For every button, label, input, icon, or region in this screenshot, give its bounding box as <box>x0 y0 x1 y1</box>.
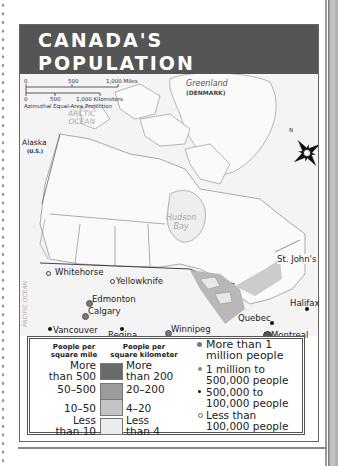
binder-dots <box>0 0 8 466</box>
size3-line2: 100,000 people <box>206 421 288 432</box>
map-title: CANADA'S POPULATION <box>38 31 195 73</box>
legend-city-size-1: 1 million to 500,000 people <box>206 364 288 385</box>
row0-mile-1: More <box>40 360 96 371</box>
scale-bar <box>26 84 118 96</box>
legend-swatch-2 <box>100 399 123 416</box>
size0-line2: million people <box>206 350 283 361</box>
city-vancouver: Vancouver <box>53 325 98 335</box>
hudson-line-1: Hudson <box>166 213 196 222</box>
row0-km-2: than 200 <box>126 371 173 382</box>
legend-row-1-km: 20–200 <box>126 384 165 395</box>
arctic-line-2: OCEAN <box>68 118 96 126</box>
arctic-ocean-label: ARCTIC OCEAN <box>68 110 96 126</box>
page-stack-edge <box>328 0 338 466</box>
row3-mile-1: Less <box>40 415 96 426</box>
page-bottom-rule <box>18 447 327 449</box>
scale-mile-0: 0 <box>24 78 28 84</box>
city-yellowknife: Yellowknife <box>116 276 163 286</box>
legend-row-2-km: 4–20 <box>126 403 151 414</box>
map-area: 0 500 1,000 Miles 0 500 1,000 Kilometers… <box>20 74 318 336</box>
city-winnipeg: Winnipeg <box>171 324 211 334</box>
title-line-2: POPULATION <box>38 54 195 73</box>
city-quebec: Quebec <box>238 313 271 323</box>
legend-city-medium-icon <box>198 390 201 393</box>
size1-line2: 500,000 people <box>206 375 288 386</box>
map-outline <box>20 74 318 336</box>
alaska-label: Alaska <box>22 138 47 147</box>
hudson-line-2: Bay <box>166 222 196 231</box>
city-edmonton: Edmonton <box>92 294 136 304</box>
legend-row-0-mile: More than 500 <box>40 360 96 381</box>
alaska-owner-label: (U.S.) <box>27 148 43 154</box>
row0-km-1: More <box>126 360 173 371</box>
legend-city-large-icon <box>198 367 202 371</box>
legend-city-small-icon <box>198 413 203 418</box>
size2-line1: 500,000 to <box>206 387 288 398</box>
legend-swatch-3 <box>100 418 123 435</box>
greenland-label: Greenland <box>186 79 228 88</box>
km-header-1: People per <box>108 343 180 351</box>
legend-city-xlarge-icon <box>197 342 202 347</box>
size3-line1: Less than <box>206 410 288 421</box>
scale-km-0: 0 <box>24 96 28 102</box>
legend-mile-header: People per square mile <box>44 343 104 359</box>
city-st-johns: St. John's <box>277 254 316 264</box>
scale-mile-500: 500 <box>68 78 79 84</box>
legend-row-0-km: More than 200 <box>126 360 173 381</box>
title-line-1: CANADA'S <box>38 31 195 50</box>
row3-km-1: Less <box>126 415 160 426</box>
page-edge <box>325 0 327 466</box>
row3-km-2: than 4 <box>126 426 160 437</box>
mile-header-1: People per <box>44 343 104 351</box>
hudson-bay-label: Hudson Bay <box>166 213 196 231</box>
city-halifax: Halifax <box>290 298 320 308</box>
map-frame: CANADA'S POPULATION <box>19 24 319 442</box>
legend-row-2-mile: 10–50 <box>40 403 96 414</box>
city-whitehorse: Whitehorse <box>55 267 103 277</box>
city-calgary: Calgary <box>88 306 121 316</box>
map-legend: People per square mile People per square… <box>27 336 305 435</box>
compass-rose <box>292 138 318 168</box>
size1-line1: 1 million to <box>206 364 288 375</box>
legend-city-size-0: More than 1 million people <box>206 339 283 361</box>
legend-row-3-km: Less than 4 <box>126 415 160 436</box>
km-header-2: square kilometer <box>108 351 180 359</box>
legend-swatch-1 <box>100 383 123 400</box>
greenland-owner-label: (DENMARK) <box>186 89 225 96</box>
mile-header-2: square mile <box>44 351 104 359</box>
legend-km-header: People per square kilometer <box>108 343 180 359</box>
legend-swatch-0 <box>100 363 123 380</box>
legend-row-1-mile: 50–500 <box>40 384 96 395</box>
scale-km-1000: 1,000 Kilometers <box>76 96 123 102</box>
legend-city-size-2: 500,000 to 100,000 people <box>206 387 288 408</box>
scale-mile-1000: 1,000 Miles <box>106 78 138 84</box>
legend-row-3-mile: Less than 10 <box>40 415 96 436</box>
scale-km-500: 500 <box>50 96 61 102</box>
row3-mile-2: than 10 <box>40 426 96 437</box>
compass-n: N <box>289 127 293 133</box>
pacific-ocean-label: PACIFIC OCEAN <box>21 281 29 327</box>
size2-line2: 100,000 people <box>206 398 288 409</box>
title-bar: CANADA'S POPULATION <box>20 25 318 74</box>
row0-mile-2: than 500 <box>40 371 96 382</box>
legend-city-size-3: Less than 100,000 people <box>206 410 288 431</box>
